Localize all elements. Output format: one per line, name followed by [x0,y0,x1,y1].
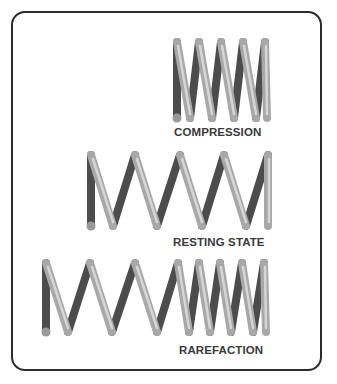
rarefaction-label: RAREFACTION [179,344,263,356]
resting-spring [87,155,270,231]
resting-state-label: RESTING STATE [173,236,265,248]
springs-canvas [0,0,337,384]
compression-label: COMPRESSION [174,126,261,138]
compression-coil-end [173,114,182,123]
rarefaction-coil-end [42,328,51,337]
rarefaction-spring [42,263,267,337]
resting-coil-end [87,222,96,231]
compression-spring [173,42,268,123]
